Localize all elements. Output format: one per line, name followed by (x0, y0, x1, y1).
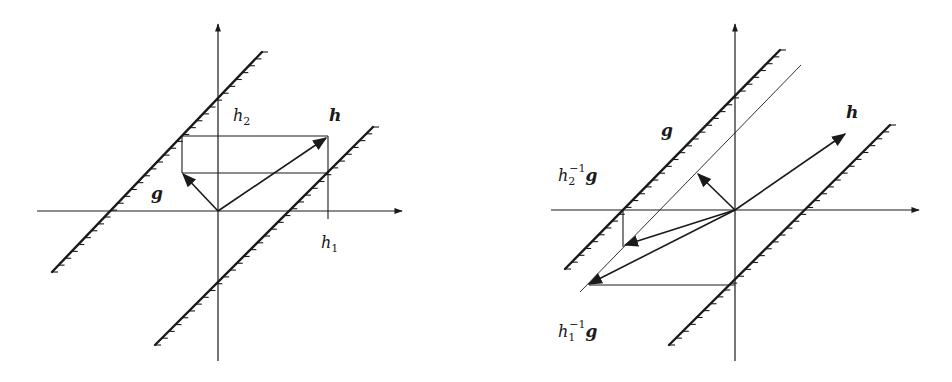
right-normal-vector (698, 174, 735, 210)
figure: h2 h g h1 h g h2−1g h1−1g (0, 0, 952, 382)
right-thin-parallel-line (580, 65, 801, 292)
left-g-vector (183, 174, 218, 211)
right-label-h2inv-g: h2−1g (558, 162, 598, 188)
left-panel: h2 h g h1 (37, 24, 402, 361)
left-label-h: h (329, 105, 341, 125)
right-panel: h g h2−1g h1−1g (551, 24, 919, 361)
left-label-g: g (151, 183, 163, 203)
right-lower-boundary (669, 125, 896, 345)
right-label-h1inv-g: h1−1g (558, 318, 598, 344)
left-label-h1: h1 (321, 233, 338, 255)
right-label-h: h (846, 102, 858, 122)
left-lower-boundary (155, 127, 379, 345)
left-upper-boundary (52, 52, 268, 272)
right-label-g: g (661, 120, 673, 140)
right-h-vector (735, 134, 845, 210)
left-h-vector (218, 138, 326, 211)
left-label-h2: h2 (233, 106, 250, 128)
right-upper-boundary (565, 50, 786, 269)
right-h2inv-g-vector (625, 210, 735, 245)
